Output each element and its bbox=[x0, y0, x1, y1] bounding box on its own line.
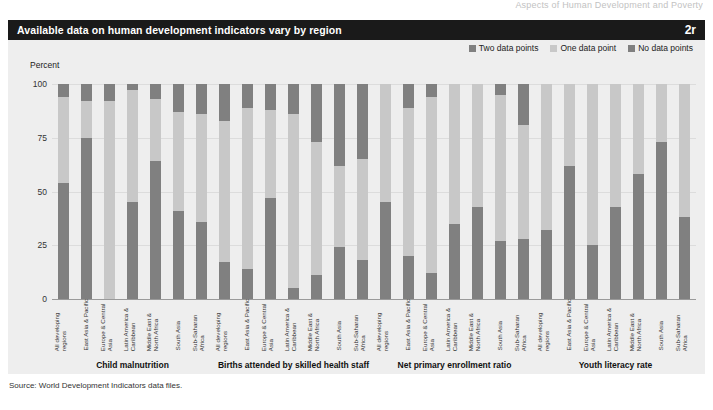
indicator-group-titles: Child malnutritionBirths attended by ski… bbox=[52, 358, 696, 372]
bar-segment-two bbox=[656, 142, 667, 299]
bar-slot[interactable] bbox=[190, 84, 213, 299]
bar-segment-none bbox=[518, 84, 529, 125]
source-note: Source: World Development Indicators dat… bbox=[9, 381, 182, 390]
region-label-slot: All developing regions bbox=[213, 301, 236, 353]
bar-slot[interactable] bbox=[466, 84, 489, 299]
bar-segment-one bbox=[472, 84, 483, 207]
stacked-bar[interactable] bbox=[334, 84, 345, 299]
bar-slot[interactable] bbox=[75, 84, 98, 299]
bar-slot[interactable] bbox=[213, 84, 236, 299]
stacked-bar[interactable] bbox=[380, 84, 391, 299]
stacked-bar[interactable] bbox=[104, 84, 115, 299]
bar-segment-one bbox=[58, 97, 69, 183]
bar-slot[interactable] bbox=[351, 84, 374, 299]
bar-segment-two bbox=[679, 217, 690, 299]
bar-segment-two bbox=[196, 222, 207, 299]
bar-segment-one bbox=[449, 84, 460, 224]
stacked-bar[interactable] bbox=[679, 84, 690, 299]
bar-segment-two bbox=[127, 202, 138, 299]
bar-slot[interactable] bbox=[673, 84, 696, 299]
bar-slot[interactable] bbox=[259, 84, 282, 299]
region-label: South Asia bbox=[175, 299, 182, 351]
bar-slot[interactable] bbox=[397, 84, 420, 299]
stacked-bar[interactable] bbox=[150, 84, 161, 299]
bar-slot[interactable] bbox=[558, 84, 581, 299]
stacked-bar[interactable] bbox=[81, 84, 92, 299]
region-label-slot: Sub-Saharan Africa bbox=[351, 301, 374, 353]
stacked-bar[interactable] bbox=[587, 84, 598, 299]
bar-segment-none bbox=[403, 84, 414, 108]
region-label-group: All developing regionsEast Asia & Pacifi… bbox=[535, 301, 696, 353]
bar-segment-one bbox=[334, 166, 345, 248]
region-label: Latin America & Caribbean bbox=[605, 299, 618, 351]
bar-slot[interactable] bbox=[167, 84, 190, 299]
region-label-slot: South Asia bbox=[489, 301, 512, 353]
bar-segment-none bbox=[219, 84, 230, 121]
region-label: East Asia & Pacific bbox=[244, 299, 251, 351]
stacked-bar[interactable] bbox=[173, 84, 184, 299]
stacked-bar[interactable] bbox=[426, 84, 437, 299]
bar-segment-two bbox=[242, 269, 253, 299]
bar-group bbox=[374, 84, 535, 299]
stacked-bar[interactable] bbox=[472, 84, 483, 299]
y-axis-tick: 50 bbox=[38, 187, 47, 197]
stacked-bar[interactable] bbox=[58, 84, 69, 299]
region-label: Europe & Central Asia bbox=[99, 299, 112, 351]
stacked-bar[interactable] bbox=[518, 84, 529, 299]
bar-slot[interactable] bbox=[650, 84, 673, 299]
bar-slot[interactable] bbox=[604, 84, 627, 299]
bar-slot[interactable] bbox=[512, 84, 535, 299]
region-label-slot: Latin America & Caribbean bbox=[282, 301, 305, 353]
bar-slot[interactable] bbox=[535, 84, 558, 299]
stacked-bar[interactable] bbox=[127, 84, 138, 299]
bar-segment-one bbox=[288, 114, 299, 288]
bar-slot[interactable] bbox=[420, 84, 443, 299]
region-label-slot: Sub-Saharan Africa bbox=[673, 301, 696, 353]
stacked-bar[interactable] bbox=[265, 84, 276, 299]
stacked-bar[interactable] bbox=[541, 84, 552, 299]
bar-slot[interactable] bbox=[282, 84, 305, 299]
bar-segment-none bbox=[104, 84, 115, 101]
stacked-bar[interactable] bbox=[610, 84, 621, 299]
stacked-bar[interactable] bbox=[564, 84, 575, 299]
stacked-bar[interactable] bbox=[288, 84, 299, 299]
stacked-bar[interactable] bbox=[633, 84, 644, 299]
stacked-bar[interactable] bbox=[196, 84, 207, 299]
region-label-slot: All developing regions bbox=[374, 301, 397, 353]
bar-segment-one bbox=[242, 108, 253, 269]
bar-slot[interactable] bbox=[627, 84, 650, 299]
bar-slot[interactable] bbox=[489, 84, 512, 299]
bar-slot[interactable] bbox=[144, 84, 167, 299]
y-axis-tick: 75 bbox=[38, 133, 47, 143]
region-label-slot: Middle East & North Africa bbox=[627, 301, 650, 353]
stacked-bar[interactable] bbox=[449, 84, 460, 299]
bar-slot[interactable] bbox=[581, 84, 604, 299]
stacked-bar[interactable] bbox=[656, 84, 667, 299]
stacked-bar[interactable] bbox=[495, 84, 506, 299]
region-label: All developing regions bbox=[53, 299, 66, 351]
stacked-bar[interactable] bbox=[219, 84, 230, 299]
region-label: Sub-Saharan Africa bbox=[191, 299, 204, 351]
bar-slot[interactable] bbox=[328, 84, 351, 299]
bar-slot[interactable] bbox=[98, 84, 121, 299]
legend-item: No data points bbox=[628, 43, 693, 53]
stacked-bar[interactable] bbox=[403, 84, 414, 299]
figure-title: Available data on human development indi… bbox=[17, 24, 342, 36]
bar-slot[interactable] bbox=[374, 84, 397, 299]
bar-segment-two bbox=[311, 275, 322, 299]
bar-segment-one bbox=[518, 125, 529, 239]
region-label-slot: South Asia bbox=[328, 301, 351, 353]
bar-slot[interactable] bbox=[443, 84, 466, 299]
bar-slot[interactable] bbox=[121, 84, 144, 299]
bar-segment-none bbox=[242, 84, 253, 108]
y-axis-label: Percent bbox=[30, 60, 59, 70]
bar-slot[interactable] bbox=[52, 84, 75, 299]
bar-segment-two bbox=[426, 273, 437, 299]
stacked-bar[interactable] bbox=[311, 84, 322, 299]
bar-slot[interactable] bbox=[236, 84, 259, 299]
stacked-bar[interactable] bbox=[357, 84, 368, 299]
stacked-bar[interactable] bbox=[242, 84, 253, 299]
region-label: Europe & Central Asia bbox=[421, 299, 434, 351]
bar-slot[interactable] bbox=[305, 84, 328, 299]
bar-segment-none bbox=[426, 84, 437, 97]
